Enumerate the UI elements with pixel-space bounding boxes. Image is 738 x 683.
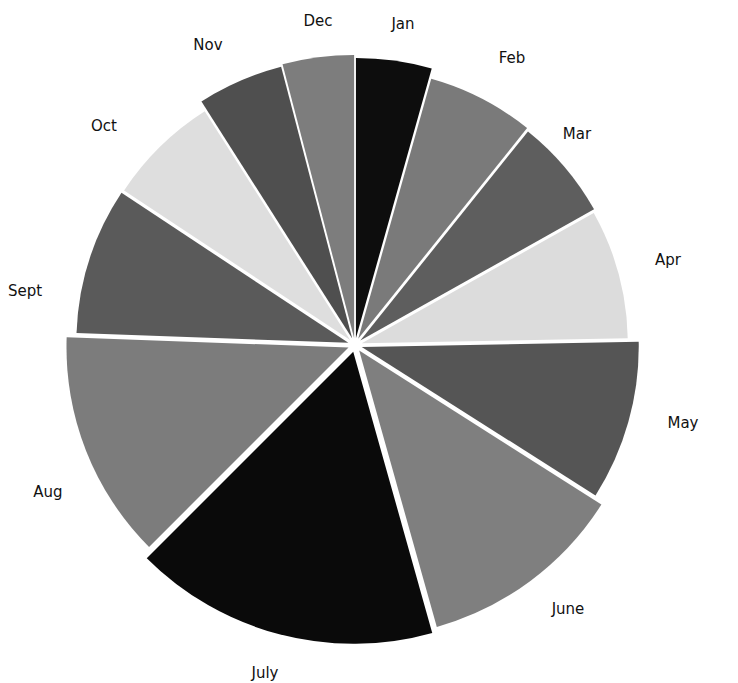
- label-dec: Dec: [303, 12, 332, 30]
- pie-slices: [66, 55, 638, 644]
- label-oct: Oct: [91, 117, 117, 135]
- label-feb: Feb: [499, 49, 526, 67]
- label-may: May: [667, 414, 698, 432]
- label-apr: Apr: [655, 251, 682, 269]
- label-sept: Sept: [8, 282, 42, 300]
- label-nov: Nov: [193, 36, 222, 54]
- pie-chart: Jan Feb Mar Apr May June July Aug Sept O…: [0, 0, 738, 683]
- label-mar: Mar: [563, 125, 592, 143]
- label-june: June: [551, 600, 585, 618]
- label-jan: Jan: [390, 15, 414, 33]
- label-aug: Aug: [33, 483, 62, 501]
- label-july: July: [251, 664, 279, 682]
